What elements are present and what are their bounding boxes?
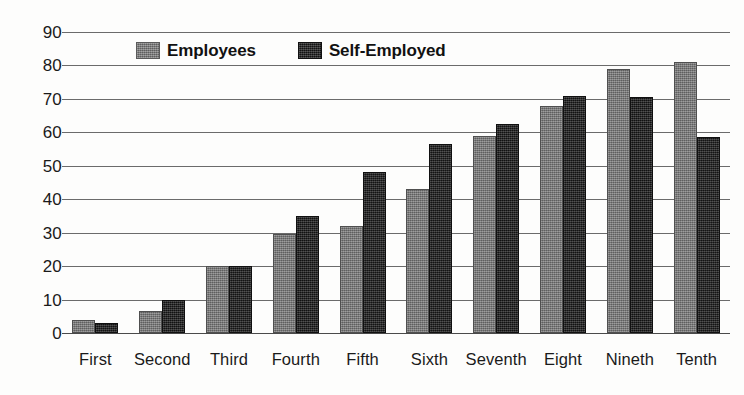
y-tick-label-30: 30 xyxy=(16,225,62,242)
x-tick-label-fifth: Fifth xyxy=(329,349,396,369)
x-tick-label-seventh: Seventh xyxy=(463,349,530,369)
y-tick-label-50: 50 xyxy=(16,158,62,175)
bar-employees-third xyxy=(206,266,229,333)
bar-self-employed-nineth xyxy=(630,97,653,333)
x-tick-label-fourth: Fourth xyxy=(262,349,329,369)
bar-self-employed-seventh xyxy=(496,124,519,333)
bar-self-employed-third xyxy=(229,266,252,333)
y-tick-label-80: 80 xyxy=(16,57,62,74)
bar-employees-fifth xyxy=(340,226,363,333)
bar-employees-tenth xyxy=(674,62,697,333)
legend-entry-employees: Employees xyxy=(136,42,256,59)
y-tick-label-60: 60 xyxy=(16,124,62,141)
bar-group-first xyxy=(62,32,129,333)
x-axis-labels: FirstSecondThirdFourthFifthSixthSeventhE… xyxy=(62,349,730,369)
chart-legend: EmployeesSelf-Employed xyxy=(136,41,450,60)
y-tick-label-0: 0 xyxy=(16,325,62,342)
bar-group-seventh xyxy=(463,32,530,333)
bar-employees-nineth xyxy=(607,69,630,333)
bar-self-employed-tenth xyxy=(697,137,720,333)
bar-group-eight xyxy=(530,32,597,333)
bar-employees-first xyxy=(72,320,95,333)
bar-employees-seventh xyxy=(473,136,496,333)
plot-area xyxy=(62,32,730,333)
y-tick-label-20: 20 xyxy=(16,258,62,275)
legend-label-self-employed: Self-Employed xyxy=(329,42,446,59)
bar-group-fifth xyxy=(329,32,396,333)
legend-label-employees: Employees xyxy=(167,42,256,59)
bar-self-employed-fourth xyxy=(296,216,319,333)
bar-self-employed-fifth xyxy=(363,172,386,333)
bar-group-nineth xyxy=(596,32,663,333)
bar-employees-sixth xyxy=(406,189,429,333)
bar-self-employed-first xyxy=(95,323,118,333)
bar-groups xyxy=(62,32,730,333)
y-tick-label-70: 70 xyxy=(16,91,62,108)
bar-group-third xyxy=(196,32,263,333)
x-tick-label-tenth: Tenth xyxy=(663,349,730,369)
legend-swatch-self-employed xyxy=(298,42,322,59)
x-tick-label-nineth: Nineth xyxy=(596,349,663,369)
bar-group-fourth xyxy=(262,32,329,333)
x-tick-label-eight: Eight xyxy=(530,349,597,369)
x-tick-label-sixth: Sixth xyxy=(396,349,463,369)
legend-swatch-employees xyxy=(136,42,160,59)
gridline-0 xyxy=(62,333,730,334)
bar-self-employed-second xyxy=(162,300,185,333)
bar-group-sixth xyxy=(396,32,463,333)
bar-group-second xyxy=(129,32,196,333)
y-tick-label-40: 40 xyxy=(16,191,62,208)
bar-self-employed-sixth xyxy=(429,144,452,333)
bar-employees-fourth xyxy=(273,234,296,333)
bar-employees-eight xyxy=(540,106,563,333)
legend-entry-self-employed: Self-Employed xyxy=(298,42,446,59)
x-tick-label-second: Second xyxy=(129,349,196,369)
x-tick-label-first: First xyxy=(62,349,129,369)
y-tick-label-90: 90 xyxy=(16,24,62,41)
bar-group-tenth xyxy=(663,32,730,333)
bar-self-employed-eight xyxy=(563,96,586,333)
bar-employees-second xyxy=(139,311,162,333)
x-tick-label-third: Third xyxy=(196,349,263,369)
bar-chart: 9080706050403020100 FirstSecondThirdFour… xyxy=(0,0,744,395)
y-tick-label-10: 10 xyxy=(16,292,62,309)
